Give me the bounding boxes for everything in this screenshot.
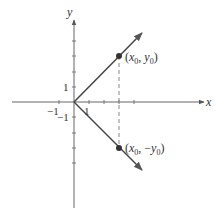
upper-ray xyxy=(74,33,142,102)
x-axis-label: x xyxy=(205,95,212,109)
point-lower xyxy=(116,145,122,151)
y-axis-label: y xyxy=(66,5,73,19)
diagram-canvas: x y −1 1 1 −1 (x0, y0) (x0, −y0) xyxy=(0,0,221,219)
point-upper-label: (x0, y0) xyxy=(125,50,158,66)
y-tick-label-neg1: −1 xyxy=(57,111,69,123)
point-lower-label: (x0, −y0) xyxy=(125,141,164,157)
point-upper xyxy=(116,53,122,59)
x-tick-label-1: 1 xyxy=(84,105,90,117)
y-tick-label-1: 1 xyxy=(63,81,69,93)
